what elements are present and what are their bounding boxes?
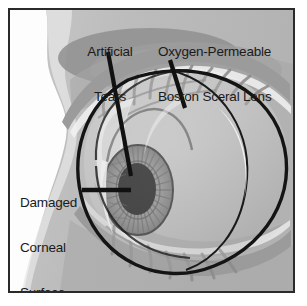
label-scleral-lens: Oxygen-Permeable Boston Sceral Lens [158, 14, 295, 134]
label-artificial-tears-line2: Tears [64, 89, 156, 104]
label-damaged-cornea-line3: Surface [20, 285, 102, 293]
label-damaged-cornea-line1: Damaged [20, 195, 102, 210]
label-artificial-tears-line1: Artificial [64, 44, 156, 59]
label-damaged-cornea: Damaged Corneal Surface [20, 165, 102, 293]
illustration-frame: Artificial Tears Oxygen-Permeable Boston… [8, 8, 295, 293]
label-scleral-lens-line2: Boston Sceral Lens [158, 89, 295, 104]
figure-container: Artificial Tears Oxygen-Permeable Boston… [0, 0, 307, 306]
label-artificial-tears: Artificial Tears [64, 14, 156, 134]
label-scleral-lens-line1: Oxygen-Permeable [158, 44, 295, 59]
label-damaged-cornea-line2: Corneal [20, 240, 102, 255]
